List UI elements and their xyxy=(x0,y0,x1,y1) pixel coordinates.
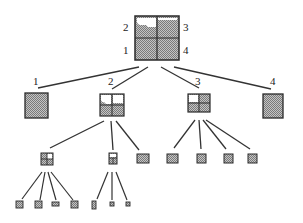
node-2-1-2 xyxy=(35,201,42,208)
edges-node-3 xyxy=(174,120,250,149)
node-2-1 xyxy=(41,153,53,165)
edges-node-2 xyxy=(50,121,139,150)
root-quadrant-label-se: 4 xyxy=(183,44,189,56)
level1-label-2: 2 xyxy=(108,75,114,87)
root-node xyxy=(135,16,179,60)
node-3-1 xyxy=(167,154,178,163)
node-2-2-2 xyxy=(110,202,114,206)
node-4 xyxy=(263,94,283,118)
node-2 xyxy=(100,94,124,116)
node-2-1-1 xyxy=(16,201,23,208)
level1-label-3: 3 xyxy=(195,75,201,87)
node-3-3 xyxy=(224,154,233,163)
level1-label-1: 1 xyxy=(33,75,39,87)
node-2-2-1 xyxy=(92,201,96,209)
node-3 xyxy=(188,94,210,112)
node-2-2 xyxy=(109,153,117,164)
node-2-1-3 xyxy=(52,202,59,206)
node-3-4 xyxy=(248,154,257,163)
level1-label-4: 4 xyxy=(270,75,276,87)
quadtree-diagram: 2 3 1 4 1 2 3 4 xyxy=(0,0,303,223)
root-quadrant-label-sw: 1 xyxy=(123,44,129,56)
node-1 xyxy=(25,93,48,118)
edges-node-2-1 xyxy=(22,172,73,200)
root-quadrant-label-ne: 3 xyxy=(183,21,189,33)
node-2-2-3 xyxy=(126,202,130,206)
node-2-3 xyxy=(137,154,149,163)
edges-node-2-2 xyxy=(97,172,127,200)
node-3-2 xyxy=(197,154,206,163)
node-2-1-4 xyxy=(71,201,78,208)
edges-level1 xyxy=(38,67,271,89)
root-quadrant-label-nw: 2 xyxy=(123,21,129,33)
